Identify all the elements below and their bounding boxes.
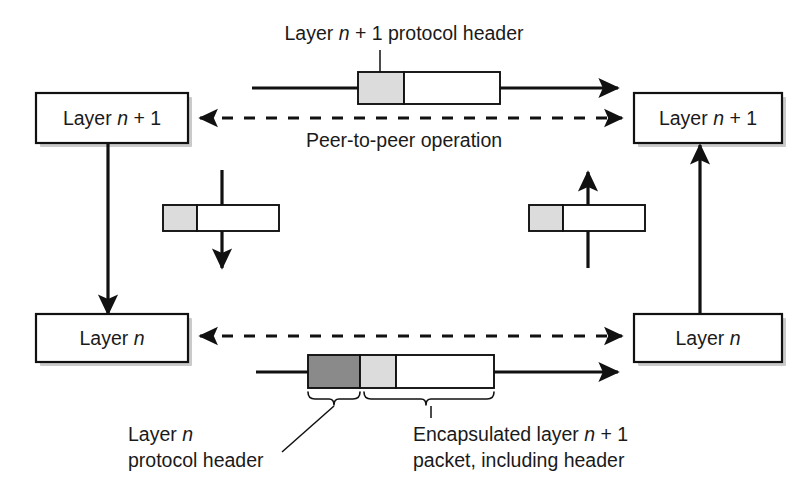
bottom-packet-layer-n-header: [308, 355, 360, 388]
encapsulated-caption-line2: packet, including header: [413, 449, 625, 471]
top-left-box-label: Layer n + 1: [63, 107, 161, 129]
layer-n-plus-1-right[interactable]: Layer n + 1: [634, 93, 786, 147]
layer-n-header-brace: [308, 392, 360, 405]
left-middle-packet-group: [163, 170, 279, 268]
peer-to-peer-label: Peer-to-peer operation: [306, 129, 502, 151]
layer-n-header-caption-line1: Layer n: [128, 423, 193, 445]
protocol-layering-diagram: Layer n + 1 protocol header Layer n + 1 …: [0, 0, 808, 492]
top-right-box-label: Layer n + 1: [659, 107, 757, 129]
bottom-left-box-label: Layer n: [79, 327, 144, 349]
encapsulated-packet-caption: Encapsulated layer n + 1 packet, includi…: [413, 423, 628, 471]
peer-to-peer-upper: Peer-to-peer operation: [200, 118, 622, 151]
left-middle-packet-payload: [197, 205, 279, 231]
layer-n-header-caption: Layer n protocol header: [128, 423, 264, 471]
diagram-canvas: Layer n + 1 protocol header Layer n + 1 …: [0, 0, 808, 492]
left-middle-packet-header: [163, 205, 197, 231]
bottom-packet-payload: [396, 355, 494, 388]
encapsulated-packet-brace: [364, 392, 494, 405]
top-caption-group: Layer n + 1 protocol header: [284, 22, 524, 78]
top-packet-payload: [404, 72, 500, 104]
right-middle-packet-header: [529, 205, 563, 231]
bottom-packet-layer-n1-header: [360, 355, 396, 388]
right-middle-packet-group: [529, 172, 645, 268]
top-peer-transmission: [252, 72, 618, 104]
layer-n-right[interactable]: Layer n: [634, 314, 786, 366]
top-caption-label: Layer n + 1 protocol header: [284, 22, 524, 44]
layer-n-plus-1-left[interactable]: Layer n + 1: [36, 93, 192, 147]
right-middle-packet-payload: [563, 205, 645, 231]
layer-n-header-caption-line2: protocol header: [128, 449, 264, 471]
encapsulated-caption-line1: Encapsulated layer n + 1: [413, 423, 628, 445]
top-packet-layer-n1-header: [358, 72, 404, 104]
layer-n-header-leader-line: [282, 406, 334, 452]
bottom-peer-transmission: [256, 355, 618, 388]
caption-italic-n: n: [339, 22, 350, 44]
layer-n-left[interactable]: Layer n: [36, 314, 192, 366]
caption-part-b: + 1 protocol header: [350, 22, 525, 44]
caption-part-a: Layer: [284, 22, 338, 44]
bottom-right-box-label: Layer n: [675, 327, 740, 349]
